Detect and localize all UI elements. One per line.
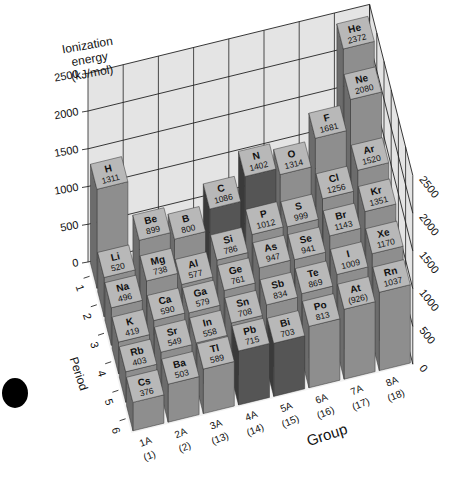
group-tick-sublabel: (18) — [386, 387, 407, 404]
bar-Ba: Ba503 — [162, 352, 199, 423]
z-tick-label-left: 2000 — [53, 105, 79, 121]
z-tick-label-right: 0 — [417, 362, 430, 374]
group-tick-label: 2A — [173, 425, 189, 440]
group-tick-sublabel: (17) — [350, 395, 371, 412]
bar-Rn: Rn1037 — [373, 260, 410, 371]
period-tick-label: 5 — [102, 397, 115, 407]
group-tick-label: 8A — [384, 374, 400, 389]
z-tick-label-right: 1000 — [417, 287, 442, 314]
period-tick-label: 3 — [88, 340, 101, 350]
bar-Pb: Pb715 — [232, 318, 269, 405]
z-axis-title: Ionization energy (kJ/mol) — [61, 34, 119, 84]
group-tick-sublabel: (13) — [210, 430, 231, 447]
group-tick-label: 7A — [349, 382, 365, 397]
group-tick-sublabel: (1) — [142, 448, 157, 463]
group-tick-sublabel: (14) — [245, 421, 266, 438]
group-tick-sublabel: (16) — [315, 404, 336, 421]
period-tick-label: 1 — [74, 283, 87, 293]
black-dot-marker — [2, 378, 28, 408]
z-tick-label-right: 500 — [417, 324, 438, 346]
bar-Bi: Bi703 — [267, 311, 304, 397]
z-tick-label-left: 1000 — [53, 181, 79, 197]
group-tick-label: 6A — [314, 391, 330, 406]
bar-Po: Po813 — [303, 294, 340, 388]
z-tick-label-left: 1500 — [53, 143, 79, 159]
period-tick-label: 4 — [95, 369, 108, 379]
z-tick-label-left: 500 — [59, 218, 79, 233]
period-tick-label: 2 — [81, 312, 94, 322]
group-tick-label: 3A — [208, 417, 224, 432]
group-tick-label: 5A — [279, 400, 295, 415]
period-tick-label: 6 — [110, 426, 123, 436]
z-tick-label-right: 2000 — [417, 211, 442, 238]
z-tick-label-right: 1500 — [417, 249, 442, 276]
z-tick-label-left: 0 — [71, 256, 79, 269]
group-tick-label: 4A — [243, 408, 259, 423]
bar-Cs: Cs376 — [127, 370, 164, 431]
bar-At: At(926) — [338, 277, 375, 380]
z-tick-label-right: 2500 — [417, 173, 442, 200]
bar-Tl: Tl589 — [197, 337, 234, 414]
group-tick-label: 1A — [138, 434, 154, 449]
group-tick-sublabel: (2) — [177, 439, 192, 454]
group-tick-sublabel: (15) — [280, 413, 301, 430]
